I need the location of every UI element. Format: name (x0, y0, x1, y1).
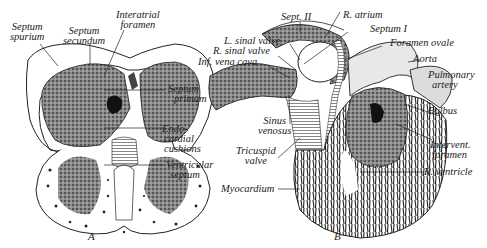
label-foramen-ovale: Foramen ovale (390, 38, 454, 48)
label-septum-i: Septum I (370, 24, 407, 34)
panel-a-caption: A (88, 230, 95, 242)
label-line: cushions (162, 144, 201, 154)
label-septum-primum: Septum primum (168, 84, 207, 104)
label-line: primum (168, 94, 207, 104)
label-myocardium: Myocardium (221, 184, 274, 194)
label-line: secundum (63, 36, 105, 46)
label-r-atrium: R. atrium (343, 10, 383, 20)
label-line: foramen (116, 20, 160, 30)
label-line: venosus (258, 126, 291, 136)
label-sinus-venosus: Sinus venosus (258, 116, 291, 136)
label-line: foramen (430, 150, 471, 160)
label-line: valve (236, 156, 276, 166)
label-aorta: Aorta (413, 54, 437, 64)
label-interatrial-foramen: Interatrial foramen (116, 10, 160, 30)
panel-b-caption: B (334, 230, 341, 242)
label-r-sinal-valve: R. sinal valve (213, 46, 270, 56)
label-line: artery (428, 80, 475, 90)
label-septum-spurium: Septum spurium (10, 22, 44, 42)
label-intervent-foramen: Intervent. foramen (430, 140, 471, 160)
label-septum-secundum: Septum secundum (63, 26, 105, 46)
label-line: spurium (10, 32, 44, 42)
label-r-ventricle: R. ventricle (424, 167, 472, 177)
label-ventricular-septum: Ventricular septum (166, 160, 213, 180)
label-sept-ii: Sept. II (281, 12, 311, 22)
label-endocardial-cushions: Endo- cardial cushions (162, 124, 201, 154)
label-line: septum (166, 170, 213, 180)
label-tricuspid-valve: Tricuspid valve (236, 146, 276, 166)
label-inf-vena-cava: Inf. vena cava (198, 57, 257, 67)
label-pulmonary-artery: Pulmonary artery (428, 70, 475, 90)
anatomy-figure: Septum spurium Septum secundum Interatri… (0, 0, 487, 248)
label-bulbus: Bulbus (428, 106, 457, 116)
